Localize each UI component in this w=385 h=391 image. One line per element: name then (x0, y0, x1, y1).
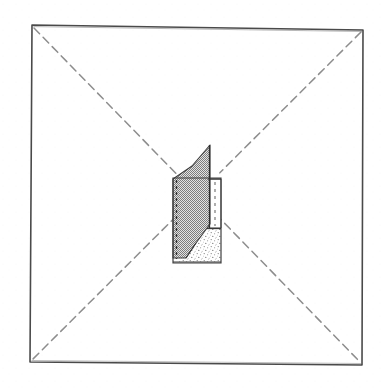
figure-canvas: Plan diagram of a square enclosure with … (0, 0, 385, 391)
diagram-svg: Plan diagram of a square enclosure with … (0, 0, 385, 391)
